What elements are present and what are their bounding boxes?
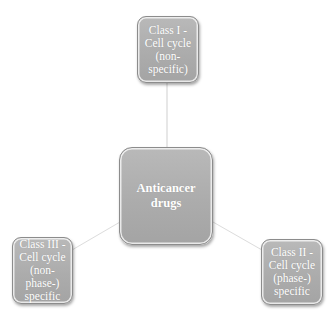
node-class-3: Class III - Cell cycle (non- phase-) spe… [12,237,73,304]
node-class-1-label: Class I - Cell cycle (non- specific) [145,24,191,76]
connector-center-to-class-2 [213,222,262,250]
node-class-2-label: Class II - Cell cycle (phase-) specific [269,246,315,298]
node-class-1: Class I - Cell cycle (non- specific) [137,16,199,83]
connector-center-to-class-3 [72,222,120,250]
node-class-2: Class II - Cell cycle (phase-) specific [261,239,323,305]
node-class-3-label: Class III - Cell cycle (non- phase-) spe… [19,238,65,303]
node-anticancer-drugs: Anticancer drugs [119,147,213,245]
node-center-label: Anticancer drugs [136,181,195,211]
